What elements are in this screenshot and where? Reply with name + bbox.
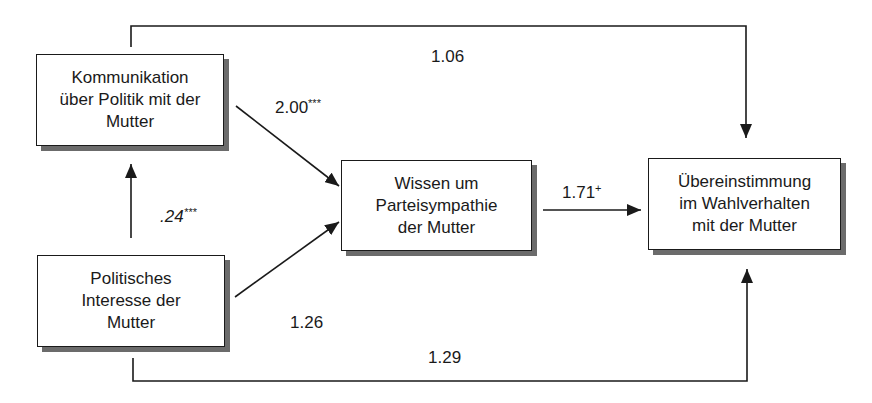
coef-value: 1.06 bbox=[431, 47, 464, 66]
node-kommunikation: Kommunikation über Politik mit der Mutte… bbox=[36, 54, 224, 146]
sig-marker: *** bbox=[308, 97, 321, 109]
node-wissen-label: Wissen um Parteisympathie der Mutter bbox=[376, 173, 498, 239]
node-uebereinstimmung-label: Übereinstimmung im Wahlverhalten mit der… bbox=[678, 171, 811, 237]
coef-interesse-kommunikation: .24*** bbox=[160, 202, 196, 227]
coef-value: 1.71 bbox=[562, 183, 595, 202]
coef-interesse-uebereinstimmung: 1.29 bbox=[428, 343, 461, 368]
coef-wissen-uebereinstimmung: 1.71+ bbox=[562, 178, 602, 203]
coef-value: .24 bbox=[160, 207, 184, 226]
edge-kommunikation-wissen bbox=[236, 106, 339, 186]
coef-value: 2.00 bbox=[275, 98, 308, 117]
coef-interesse-wissen: 1.26 bbox=[290, 308, 323, 333]
node-interesse-label: Politisches Interesse der Mutter bbox=[81, 268, 180, 334]
sig-marker: + bbox=[595, 182, 601, 194]
coef-value: 1.26 bbox=[290, 313, 323, 332]
edge-interesse-wissen bbox=[235, 222, 339, 297]
node-interesse: Politisches Interesse der Mutter bbox=[37, 255, 225, 347]
coef-kommunikation-uebereinstimmung: 1.06 bbox=[431, 42, 464, 67]
coef-kommunikation-wissen: 2.00*** bbox=[275, 93, 321, 118]
node-kommunikation-label: Kommunikation über Politik mit der Mutte… bbox=[60, 67, 201, 133]
node-uebereinstimmung: Übereinstimmung im Wahlverhalten mit der… bbox=[648, 158, 841, 250]
node-wissen: Wissen um Parteisympathie der Mutter bbox=[341, 160, 532, 251]
coef-value: 1.29 bbox=[428, 348, 461, 367]
sig-marker: *** bbox=[184, 206, 197, 218]
